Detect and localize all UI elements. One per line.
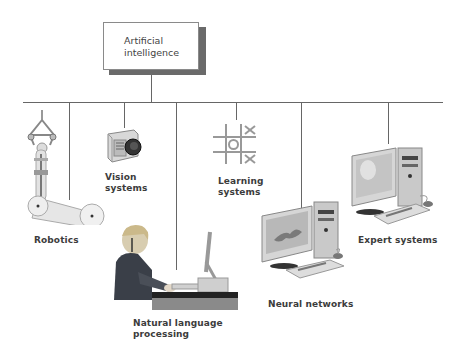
root-label-line1: Artificial (124, 35, 179, 47)
label-learning-line2: systems (218, 187, 264, 198)
label-nlp-line2: processing (133, 329, 223, 340)
robot-arm-icon (18, 110, 110, 225)
label-vision-line1: Vision (105, 172, 147, 183)
root-node-artificial-intelligence: Artificial intelligence (103, 22, 199, 70)
person-at-computer-icon (112, 222, 240, 312)
desktop-computer-icon (260, 200, 350, 284)
label-nlp: Natural language processing (133, 318, 223, 340)
root-label-line2: intelligence (124, 47, 179, 59)
connector-vision (124, 102, 125, 128)
label-nlp-line1: Natural language (133, 318, 223, 329)
root-stem-line (151, 75, 152, 102)
root-label: Artificial intelligence (124, 35, 179, 59)
label-neural: Neural networks (268, 299, 353, 310)
desktop-computer-icon (350, 144, 440, 228)
label-robotics: Robotics (34, 235, 79, 246)
label-vision-line2: systems (105, 183, 147, 194)
label-vision: Vision systems (105, 172, 147, 194)
label-learning-line1: Learning (218, 176, 264, 187)
connector-expert (388, 102, 389, 144)
tic-tac-toe-icon (211, 122, 261, 166)
connector-learning (236, 102, 237, 120)
main-horizontal-line (23, 102, 443, 103)
label-learning: Learning systems (218, 176, 264, 198)
camera-icon (104, 128, 144, 164)
connector-neural (301, 102, 302, 212)
label-expert: Expert systems (358, 235, 438, 246)
